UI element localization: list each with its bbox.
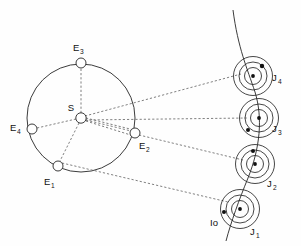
sight-line-e3-j3 bbox=[85, 118, 247, 120]
jupiter-label-j3: J bbox=[272, 123, 277, 134]
io-dot-j2 bbox=[251, 149, 255, 153]
earth-sublabel-e2: 2 bbox=[146, 146, 150, 153]
earth-circle-e1 bbox=[53, 161, 63, 171]
earth-circle-e3 bbox=[76, 58, 86, 68]
earth-label-e3: E bbox=[73, 42, 79, 53]
sight-line-s-fan-b bbox=[86, 121, 137, 137]
jupiter-center-dot-j2 bbox=[253, 162, 257, 166]
jupiter-label-j2: J bbox=[267, 178, 272, 189]
sight-line-e2-j2 bbox=[139, 135, 243, 160]
jupiter-group-j4: J 4 bbox=[234, 57, 283, 96]
io-dot-j1 bbox=[222, 210, 226, 214]
io-dot-j3 bbox=[246, 128, 250, 132]
sun-spoke-e2 bbox=[86, 120, 131, 131]
roemer-io-diagram: S E 1 E 2 E 3 E 4 J 4 bbox=[0, 0, 301, 246]
earth-label-e4: E bbox=[10, 122, 16, 133]
earth-circle-e2 bbox=[130, 128, 140, 138]
jupiter-sublabel-j3: 3 bbox=[278, 129, 282, 136]
sun-circle bbox=[76, 113, 86, 123]
earth-sublabel-e4: 4 bbox=[17, 128, 21, 135]
sun-label: S bbox=[68, 102, 74, 113]
jupiter-label-j1: J bbox=[250, 226, 255, 237]
jupiter-label-j4: J bbox=[272, 72, 277, 83]
figure-root: S E 1 E 2 E 3 E 4 J 4 bbox=[0, 0, 301, 246]
jupiter-center-dot-j4 bbox=[251, 74, 255, 78]
sight-line-e1-j1 bbox=[62, 163, 228, 202]
earth-sublabel-e1: 1 bbox=[51, 182, 55, 189]
io-dot-j4 bbox=[260, 64, 264, 68]
jupiter-sublabel-j4: 4 bbox=[278, 78, 282, 85]
earth-circle-e4 bbox=[27, 124, 37, 134]
earth-label-e1: E bbox=[44, 176, 50, 187]
sun-spoke-e1 bbox=[60, 123, 79, 161]
jupiter-sublabel-j2: 2 bbox=[273, 184, 277, 191]
sight-line-e4-j4 bbox=[85, 74, 241, 116]
jupiter-center-dot-j3 bbox=[257, 116, 261, 120]
jupiter-center-dot-j1 bbox=[238, 207, 242, 211]
io-label: Io bbox=[210, 217, 218, 228]
sight-line-s-fan-a bbox=[86, 118, 134, 130]
jupiter-group-j1: J 1 Io bbox=[210, 190, 260, 239]
sun-spoke-e4 bbox=[37, 119, 76, 128]
jupiter-sublabel-j1: 1 bbox=[256, 232, 260, 239]
earth-sublabel-e3: 3 bbox=[80, 48, 84, 55]
earth-label-e2: E bbox=[139, 140, 145, 151]
